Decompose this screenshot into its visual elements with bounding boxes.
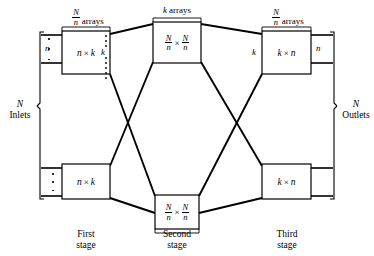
third-stage-caption-line2: stage <box>257 240 317 251</box>
first-stage-caption-line1: First <box>56 229 116 240</box>
box-label-second-bottom: N n × N n <box>155 195 199 229</box>
outlets-label: N Outlets <box>338 99 374 121</box>
box-second-top-right-denominator: n <box>182 43 190 52</box>
first-stage-count-denominator: n <box>72 18 80 27</box>
third-stage-count-word: arrays <box>282 16 304 26</box>
box-third-top-right: n <box>291 48 296 58</box>
box-second-bottom-right-denominator: n <box>182 213 190 222</box>
third-stage-count-denominator: n <box>272 18 280 27</box>
outlets-word: Outlets <box>338 110 374 121</box>
box-third-top-op: × <box>282 48 291 58</box>
box-second-top-left-denominator: n <box>165 43 173 52</box>
first-stage-count-word: arrays <box>82 16 104 26</box>
first-stage-caption: First stage <box>56 229 116 251</box>
box-second-top-right-fraction: N n <box>182 34 190 52</box>
box-label-first-bottom: n × k <box>62 164 110 199</box>
second-stage-count-symbol: k <box>163 5 167 15</box>
box-first-bottom-op: × <box>82 177 91 187</box>
box-second-bottom-left-denominator: n <box>165 213 173 222</box>
box-label-third-bottom: k × n <box>262 164 311 199</box>
third-stage-count-fraction: N n <box>272 8 280 26</box>
box-second-top-left-fraction: N n <box>165 34 173 52</box>
second-stage-caption: Second stage <box>147 229 207 251</box>
box-label-third-top: k × n <box>262 31 311 74</box>
box-third-bottom-op: × <box>282 177 291 187</box>
inlets-symbol: N <box>2 99 38 110</box>
first-stage-input-dots <box>47 38 51 60</box>
third-stage-caption: Third stage <box>257 229 317 251</box>
dot <box>52 190 54 192</box>
outlets-symbol: N <box>338 99 374 110</box>
first-stage-count-fraction: N n <box>72 8 80 26</box>
box-third-bottom-right: n <box>291 177 296 187</box>
box-first-top-op: × <box>82 48 91 58</box>
box-second-bottom-op: × <box>172 207 181 217</box>
first-stage-bottom-input-dots <box>51 173 55 191</box>
third-stage-count-label: N n arrays <box>258 8 318 26</box>
box-second-bottom-left-fraction: N n <box>165 203 173 221</box>
third-stage-caption-line1: Third <box>257 229 317 240</box>
box-first-top-right: k <box>91 48 95 58</box>
dot <box>48 48 50 50</box>
inlets-word: Inlets <box>2 110 38 121</box>
box-first-bottom-right: k <box>91 177 95 187</box>
second-stage-caption-line1: Second <box>147 229 207 240</box>
box-second-bottom-right-fraction: N n <box>182 203 190 221</box>
interconnect-stage1-stage2 <box>110 24 155 213</box>
box-label-second-top: N n × N n <box>153 22 201 63</box>
box-second-top-op: × <box>172 38 181 48</box>
inlets-brace <box>37 32 44 199</box>
first-stage-output-port-label: k <box>101 47 105 57</box>
outlets-brace <box>330 32 337 199</box>
dot <box>48 38 50 40</box>
dot <box>52 181 54 183</box>
figure-canvas: k arrays N n arrays N n arrays n × k n ×… <box>0 0 374 256</box>
second-stage-count-label: k arrays <box>142 2 212 15</box>
third-stage-bottom-output-lines <box>311 168 333 196</box>
dot <box>52 173 54 175</box>
third-stage-output-port-label: n <box>316 43 321 53</box>
third-stage-input-port-label: k <box>252 47 256 57</box>
dot <box>48 59 50 61</box>
third-stage-top-output-lines <box>311 35 333 63</box>
first-stage-caption-line2: stage <box>56 240 116 251</box>
second-stage-count-word: arrays <box>169 5 191 15</box>
inlets-label: N Inlets <box>2 99 38 121</box>
second-stage-caption-line2: stage <box>147 240 207 251</box>
first-stage-count-label: N n arrays <box>58 8 118 26</box>
